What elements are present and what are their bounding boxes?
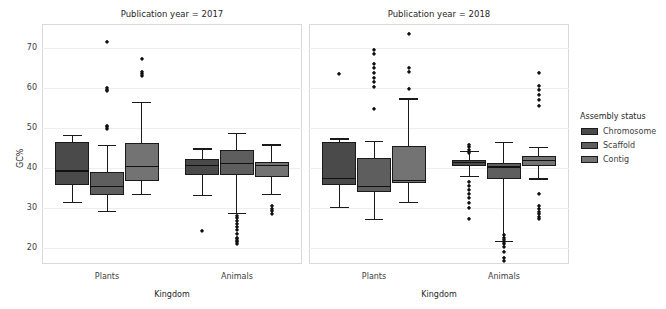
whisker-upper xyxy=(503,142,504,164)
median-line xyxy=(322,178,356,179)
whisker-cap-upper xyxy=(63,135,82,136)
median-line xyxy=(220,163,254,164)
whisker-lower xyxy=(271,177,272,194)
box-contig xyxy=(125,143,159,181)
box-contig xyxy=(392,146,426,183)
whisker-cap-upper xyxy=(365,141,384,142)
y-tick-label: 60 xyxy=(15,83,37,92)
whisker-cap-lower xyxy=(330,207,349,208)
whisker-upper xyxy=(141,102,142,143)
gridline xyxy=(309,88,569,89)
box-chromosome xyxy=(55,142,89,185)
legend-label-scaffold: Scaffold xyxy=(603,141,635,150)
median-line xyxy=(452,162,486,163)
whisker-cap-upper xyxy=(98,145,117,146)
legend-label-contig: Contig xyxy=(603,155,629,164)
gridline xyxy=(42,208,302,209)
whisker-lower xyxy=(538,166,539,179)
whisker-lower xyxy=(469,166,470,176)
gridline xyxy=(309,48,569,49)
whisker-lower xyxy=(107,195,108,211)
gridline xyxy=(42,248,302,249)
x-axis-title-right: Kingdom xyxy=(309,290,569,299)
whisker-cap-upper xyxy=(228,133,247,134)
whisker-upper xyxy=(408,98,409,146)
whisker-cap-upper xyxy=(495,142,514,143)
whisker-cap-upper xyxy=(330,138,349,139)
whisker-upper xyxy=(107,145,108,172)
panel-2017 xyxy=(42,24,302,264)
x-tick-label: Animals xyxy=(464,272,544,281)
gridline xyxy=(42,88,302,89)
box-chromosome xyxy=(185,159,219,175)
x-tick-label: Plants xyxy=(334,272,414,281)
legend-title: Assembly status xyxy=(580,112,646,121)
whisker-lower xyxy=(141,181,142,194)
whisker-lower xyxy=(72,185,73,202)
median-line xyxy=(357,186,391,187)
x-tick-label: Animals xyxy=(197,272,277,281)
median-line xyxy=(522,160,556,161)
box-scaffold xyxy=(90,172,124,195)
whisker-upper xyxy=(236,133,237,150)
whisker-upper xyxy=(374,141,375,158)
whisker-upper xyxy=(538,147,539,156)
whisker-cap-upper xyxy=(132,102,151,103)
median-line xyxy=(255,165,289,166)
whisker-lower xyxy=(408,183,409,202)
whisker-cap-lower xyxy=(63,202,82,203)
whisker-cap-lower xyxy=(365,219,384,220)
facet-title-2017: Publication year = 2017 xyxy=(58,9,286,19)
whisker-cap-upper xyxy=(193,148,212,149)
whisker-cap-upper xyxy=(262,144,281,145)
median-line xyxy=(487,166,521,167)
median-line xyxy=(185,165,219,166)
gridline xyxy=(42,48,302,49)
whisker-cap-upper xyxy=(529,147,548,148)
facet-title-2018: Publication year = 2018 xyxy=(325,9,553,19)
whisker-cap-lower xyxy=(132,194,151,195)
whisker-lower xyxy=(236,175,237,213)
legend: Assembly status Chromosome Scaffold Cont… xyxy=(580,112,666,168)
x-tick-label: Plants xyxy=(67,272,147,281)
whisker-cap-lower xyxy=(460,176,479,177)
legend-item-chromosome[interactable]: Chromosome xyxy=(581,127,656,136)
legend-label-chromosome: Chromosome xyxy=(603,127,656,136)
whisker-cap-lower xyxy=(529,178,548,179)
whisker-cap-lower xyxy=(98,211,117,212)
whisker-lower xyxy=(202,175,203,195)
y-tick-label: 30 xyxy=(15,203,37,212)
y-tick-label: 40 xyxy=(15,163,37,172)
x-axis-title-left: Kingdom xyxy=(42,290,302,299)
y-tick-label: 70 xyxy=(15,43,37,52)
gridline xyxy=(42,128,302,129)
y-tick-label: 20 xyxy=(15,243,37,252)
legend-item-contig[interactable]: Contig xyxy=(581,155,629,164)
legend-item-scaffold[interactable]: Scaffold xyxy=(581,141,635,150)
y-tick-label: 50 xyxy=(15,123,37,132)
gridline xyxy=(309,128,569,129)
legend-swatch-chromosome xyxy=(581,128,598,135)
chart-root: GC% Publication year = 2017 Publication … xyxy=(0,0,666,309)
median-line xyxy=(392,180,426,181)
whisker-cap-upper xyxy=(399,98,418,99)
median-line xyxy=(125,166,159,167)
whisker-upper xyxy=(202,148,203,159)
panel-2018 xyxy=(309,24,569,264)
whisker-lower xyxy=(339,185,340,207)
whisker-cap-lower xyxy=(262,194,281,195)
median-line xyxy=(90,186,124,187)
box-scaffold xyxy=(357,158,391,192)
whisker-cap-lower xyxy=(399,202,418,203)
whisker-lower xyxy=(374,192,375,219)
median-line xyxy=(55,170,89,171)
gridline xyxy=(309,248,569,249)
whisker-cap-lower xyxy=(193,195,212,196)
legend-swatch-contig xyxy=(581,156,598,163)
whisker-upper xyxy=(271,144,272,162)
legend-swatch-scaffold xyxy=(581,142,598,149)
